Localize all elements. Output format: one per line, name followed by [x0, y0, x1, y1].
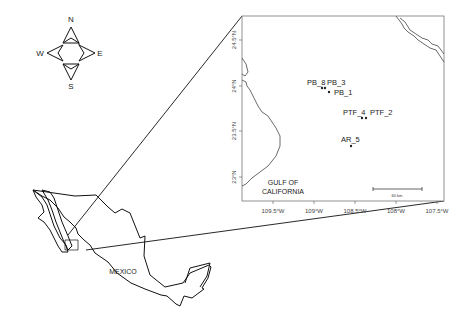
compass-north-label: N — [68, 15, 74, 24]
baja-california-outline — [33, 190, 68, 252]
inset-map: 24.5°N 24°N 23.5°N 23°N 109.5°W 109°W 10… — [231, 16, 449, 214]
station-pb8-label: PB_8 — [307, 78, 325, 87]
x-tick-109-5w: 109.5°W — [261, 208, 284, 214]
compass-south-label: S — [68, 82, 73, 91]
overview-map-mexico: MEXICO — [33, 190, 211, 306]
station-ptf4-marker — [361, 117, 363, 119]
y-tick-23n: 23°N — [231, 170, 237, 183]
compass-rose: N S W E — [36, 15, 102, 91]
compass-east-label: E — [97, 49, 102, 58]
y-tick-24-5n: 24.5°N — [231, 31, 237, 49]
station-ar5-label: AR_5 — [341, 135, 360, 144]
station-pb3-marker — [324, 87, 326, 89]
x-tick-108w: 108°W — [387, 208, 405, 214]
station-pb8-marker — [321, 87, 323, 89]
y-tick-24n: 24°N — [231, 79, 237, 92]
station-ptf2-marker — [365, 117, 367, 119]
x-tick-107-5w: 107.5°W — [425, 208, 448, 214]
station-ptf4-label: PTF_4 — [343, 108, 366, 117]
x-tick-108-5w: 108.5°W — [343, 208, 366, 214]
compass-star-icon — [47, 27, 95, 80]
gulf-label-line2: CALIFORNIA — [262, 188, 304, 195]
gulf-label-line1: GULF OF — [268, 179, 298, 186]
station-pb1-marker — [328, 91, 330, 93]
station-pb1-label: PB_1 — [334, 88, 352, 97]
x-tick-109w: 109°W — [305, 208, 323, 214]
compass-west-label: W — [36, 49, 44, 58]
station-pb3-label: PB_3 — [327, 78, 345, 87]
map-figure: N S W E MEXICO — [0, 0, 467, 321]
station-ptf2-label: PTF_2 — [370, 108, 393, 117]
mexico-label: MEXICO — [109, 268, 137, 275]
station-ar5-marker — [350, 145, 352, 147]
scale-bar-label: 60 km — [392, 193, 404, 198]
y-tick-23-5n: 23.5°N — [231, 122, 237, 140]
